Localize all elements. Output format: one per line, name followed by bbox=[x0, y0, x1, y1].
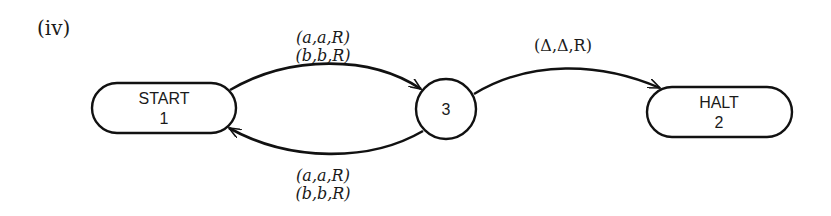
edge-start-to-3-label-2: (b,b,R) bbox=[295, 46, 350, 65]
edge-start-to-3-label-1: (a,a,R) bbox=[296, 28, 350, 47]
edge-3-to-halt bbox=[474, 68, 660, 94]
node-halt: HALT 2 bbox=[647, 87, 792, 137]
edge-3-to-halt-label: (Δ,Δ,R) bbox=[534, 36, 592, 55]
edge-3-to-start bbox=[229, 128, 423, 154]
edge-3-to-start-label-1: (a,a,R) bbox=[296, 166, 350, 185]
node-halt-label: HALT bbox=[699, 94, 739, 111]
node-start: START 1 bbox=[92, 83, 236, 133]
edge-start-to-3 bbox=[230, 64, 421, 90]
node-state-3-label: 3 bbox=[442, 101, 451, 118]
node-state-3: 3 bbox=[416, 79, 476, 139]
turing-machine-diagram: (iv) START 1 3 HALT 2 (a,a,R) (b,b,R) (a… bbox=[0, 0, 831, 216]
node-start-number: 1 bbox=[160, 110, 169, 127]
edge-3-to-start-label-2: (b,b,R) bbox=[295, 184, 350, 203]
node-start-label: START bbox=[139, 90, 190, 107]
figure-label: (iv) bbox=[37, 16, 70, 40]
node-halt-number: 2 bbox=[715, 114, 724, 131]
